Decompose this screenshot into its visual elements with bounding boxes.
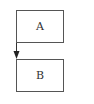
node-b: B bbox=[16, 59, 64, 92]
arrowhead-icon bbox=[14, 51, 20, 59]
node-b-label: B bbox=[36, 69, 44, 82]
edge-a-to-b bbox=[14, 42, 20, 59]
node-a: A bbox=[16, 10, 64, 43]
node-a-label: A bbox=[36, 20, 44, 33]
